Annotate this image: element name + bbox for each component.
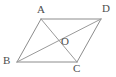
vertex-label-b: B bbox=[3, 55, 10, 66]
vertex-label-d: D bbox=[102, 3, 110, 14]
figure-canvas bbox=[0, 0, 116, 77]
geometry-figure: A D B C O bbox=[0, 0, 116, 77]
vertex-label-c: C bbox=[73, 63, 80, 74]
vertex-label-o: O bbox=[61, 36, 69, 47]
vertex-label-a: A bbox=[37, 4, 45, 15]
diagonal-bd bbox=[17, 19, 101, 62]
parallelogram-diagonals bbox=[17, 19, 101, 62]
